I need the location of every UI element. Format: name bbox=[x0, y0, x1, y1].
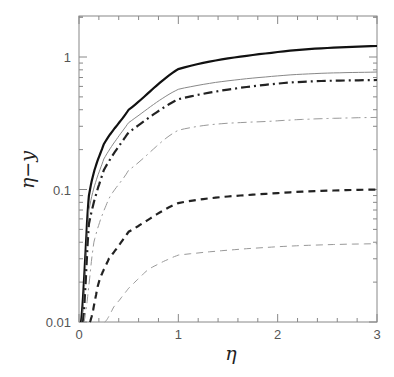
y-tick-label: 0.1 bbox=[53, 183, 71, 198]
x-tick-label: 2 bbox=[274, 327, 281, 342]
series-thin-dashdot bbox=[84, 117, 377, 322]
series-thick-dashed bbox=[90, 190, 377, 323]
series-thin-dashed bbox=[105, 244, 377, 322]
axis-ticks bbox=[79, 16, 377, 322]
series-thick-dashdot bbox=[83, 80, 377, 322]
x-tick-label: 1 bbox=[175, 327, 182, 342]
series-thick-solid bbox=[81, 46, 377, 322]
y-axis-label: η−y bbox=[16, 151, 38, 189]
x-tick-label: 0 bbox=[75, 327, 82, 342]
x-axis-label: η bbox=[225, 342, 237, 364]
y-tick-label: 1 bbox=[64, 50, 71, 65]
plot-border bbox=[79, 16, 377, 322]
plot-frame bbox=[79, 16, 377, 322]
chart: 01230.010.11 η η−y bbox=[0, 0, 394, 377]
data-series bbox=[81, 46, 377, 322]
y-tick-label: 0.01 bbox=[46, 315, 71, 330]
x-tick-label: 3 bbox=[373, 327, 380, 342]
